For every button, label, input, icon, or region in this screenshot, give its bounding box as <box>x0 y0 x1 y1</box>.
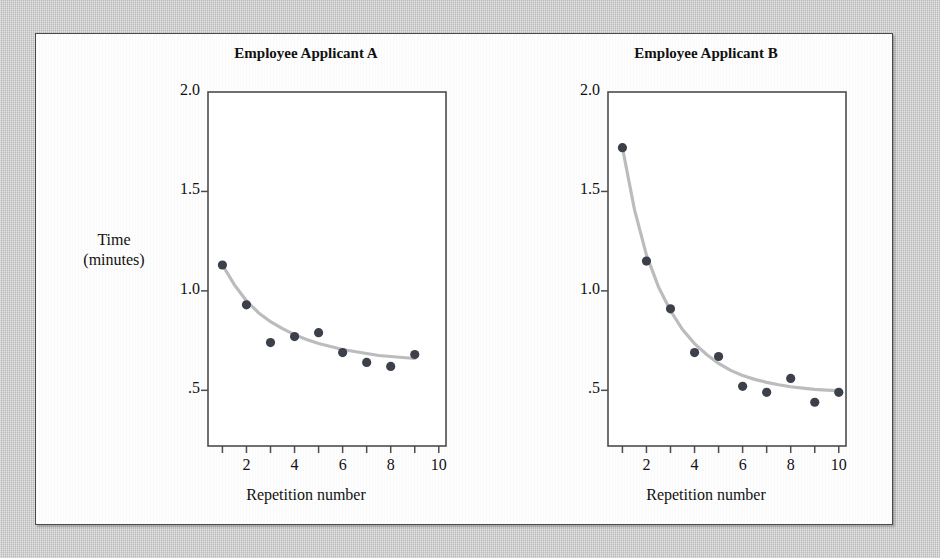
chart-a-x-tick-label: 2 <box>226 456 266 474</box>
chart-b-x-tick-label: 6 <box>723 456 763 474</box>
chart-b-data-point <box>738 382 747 391</box>
chart-b-title: Employee Applicant B <box>556 45 856 62</box>
chart-a-data-point <box>386 362 395 371</box>
figure-panel: Time (minutes) Employee Applicant A Repe… <box>35 33 893 525</box>
chart-a-title: Employee Applicant A <box>156 45 456 62</box>
chart-b-x-tick-label: 8 <box>771 456 811 474</box>
chart-b-data-point <box>810 398 819 407</box>
chart-b-data-point <box>690 348 699 357</box>
chart-b-x-axis-label: Repetition number <box>556 486 856 504</box>
chart-a-x-tick-label: 8 <box>371 456 411 474</box>
chart-a-data-point <box>290 332 299 341</box>
chart-b-data-point <box>642 256 651 265</box>
chart-b-y-tick-label: 1.0 <box>548 280 600 298</box>
chart-a-y-tick-label: .5 <box>148 379 200 397</box>
chart-a-data-point <box>242 300 251 309</box>
chart-a-x-tick-label: 10 <box>419 456 459 474</box>
chart-a-plot-frame <box>208 92 446 446</box>
chart-a-x-tick-label: 4 <box>275 456 315 474</box>
chart-a-data-point <box>218 260 227 269</box>
chart-b-y-tick-label: 2.0 <box>548 81 600 99</box>
chart-a-data-point <box>338 348 347 357</box>
chart-b <box>554 64 854 464</box>
chart-b-y-tick-label: .5 <box>548 379 600 397</box>
chart-b-x-tick-label: 2 <box>626 456 666 474</box>
chart-a-y-tick-label: 2.0 <box>148 81 200 99</box>
chart-b-data-point <box>666 304 675 313</box>
chart-a-data-point <box>362 358 371 367</box>
chart-a-data-point <box>266 338 275 347</box>
chart-b-data-point <box>834 388 843 397</box>
chart-b-x-tick-label: 10 <box>819 456 859 474</box>
chart-b-data-point <box>618 143 627 152</box>
chart-a-y-tick-label: 1.5 <box>148 180 200 198</box>
chart-b-data-point <box>762 388 771 397</box>
chart-b-plot-frame <box>608 92 846 446</box>
chart-a-x-tick-label: 6 <box>323 456 363 474</box>
chart-b-y-tick-label: 1.5 <box>548 180 600 198</box>
chart-a-x-axis-label: Repetition number <box>156 486 456 504</box>
chart-a-data-point <box>410 350 419 359</box>
chart-b-data-point <box>786 374 795 383</box>
chart-a <box>154 64 454 464</box>
chart-b-data-point <box>714 352 723 361</box>
chart-a-data-point <box>314 328 323 337</box>
chart-a-y-tick-label: 1.0 <box>148 280 200 298</box>
chart-b-x-tick-label: 4 <box>675 456 715 474</box>
